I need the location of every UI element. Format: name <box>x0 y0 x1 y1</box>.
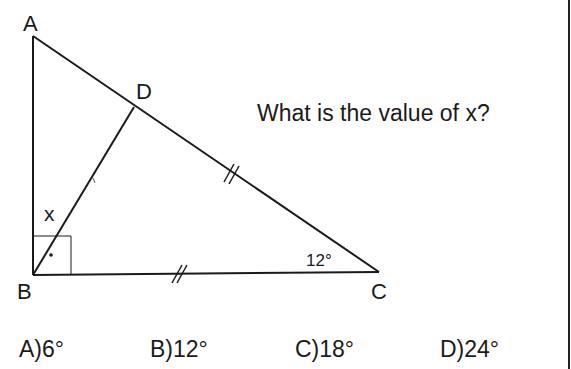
vertex-label-B: B <box>17 281 32 303</box>
choice-letter: B) <box>150 336 173 362</box>
choice-d[interactable]: D)24° <box>440 338 499 361</box>
segment-AC <box>33 36 379 272</box>
vertex-label-C: C <box>371 281 387 303</box>
tick-mark-BD <box>93 178 95 183</box>
question-text: What is the value of x? <box>257 102 490 125</box>
angle-label-x: x <box>44 203 55 224</box>
choice-value: 12° <box>173 336 208 362</box>
choice-value: 6° <box>42 336 64 362</box>
choice-letter: C) <box>295 336 319 362</box>
choice-letter: D) <box>440 336 464 362</box>
choice-b[interactable]: B)12° <box>150 338 208 361</box>
segment-BD <box>33 107 134 275</box>
angle-label-C: 12° <box>306 252 332 269</box>
right-border-divider <box>568 0 570 369</box>
answer-choices: A)6° B)12° C)18° D)24° <box>0 338 571 366</box>
vertex-label-D: D <box>136 81 152 103</box>
segment-BC <box>33 272 379 275</box>
choice-c[interactable]: C)18° <box>295 338 354 361</box>
choice-value: 18° <box>319 336 354 362</box>
angle-dot <box>49 253 53 257</box>
choice-a[interactable]: A)6° <box>19 338 64 361</box>
triangle-figure <box>0 0 571 369</box>
choice-letter: A) <box>19 336 42 362</box>
choice-value: 24° <box>464 336 499 362</box>
vertex-label-A: A <box>23 13 38 35</box>
